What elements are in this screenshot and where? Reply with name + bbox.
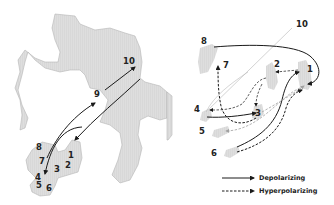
left-label-6: 6 <box>46 183 52 193</box>
arrow-4-to-3 <box>207 113 256 117</box>
protein-edge-fragment <box>167 92 172 140</box>
right-label-8: 8 <box>201 36 207 46</box>
left-label-2: 2 <box>65 160 71 170</box>
legend-hyperpolarizing-label: Hyperpolarizing <box>259 187 318 195</box>
legend: Depolarizing Hyperpolarizing <box>222 174 318 195</box>
right-label-10: 10 <box>296 19 308 29</box>
right-label-2: 2 <box>274 59 280 69</box>
helix-5 <box>212 126 230 138</box>
left-label-5: 5 <box>36 180 42 190</box>
right-panel: 1 2 3 4 5 6 7 8 10 Depolarizing Hyperpol… <box>167 19 319 195</box>
right-label-7: 7 <box>223 60 229 70</box>
left-label-9: 9 <box>94 89 100 99</box>
left-label-10: 10 <box>123 56 135 66</box>
right-label-1: 1 <box>307 64 313 74</box>
right-label-5: 5 <box>199 126 205 136</box>
left-label-3: 3 <box>54 164 60 174</box>
arrow-1-to-2 <box>276 70 298 72</box>
left-panel: 1 2 3 4 5 6 7 8 9 10 <box>15 14 167 196</box>
left-label-1: 1 <box>68 150 74 160</box>
right-label-6: 6 <box>211 148 217 158</box>
right-label-3: 3 <box>255 108 261 118</box>
axis-line <box>206 28 292 112</box>
arrow-2-to-3 <box>256 84 262 106</box>
left-label-8: 8 <box>36 142 42 152</box>
diagram-canvas: 1 2 3 4 5 6 7 8 9 10 <box>0 0 334 205</box>
helix-8 <box>198 44 218 74</box>
legend-depolarizing-label: Depolarizing <box>259 174 306 182</box>
left-label-7: 7 <box>39 156 45 166</box>
right-label-4: 4 <box>194 104 200 114</box>
